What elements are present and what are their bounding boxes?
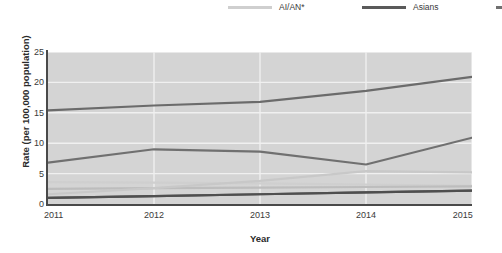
chart-legend: AI/AN*AsiansBlacksHispanicsNHOPI*WhitesM… xyxy=(228,2,496,42)
x-tick-label: 2012 xyxy=(144,210,164,220)
legend-item: Asians xyxy=(362,2,496,12)
legend-item: Blacks xyxy=(496,2,502,12)
legend-swatch-icon xyxy=(362,6,406,9)
series-canvas xyxy=(48,52,472,204)
x-axis-line xyxy=(46,204,472,206)
x-tick-label: 2013 xyxy=(250,210,270,220)
x-tick-label: 2011 xyxy=(44,210,63,220)
legend-swatch-icon xyxy=(228,6,272,9)
y-axis-ticks: 0510152025 xyxy=(10,0,44,253)
series-line xyxy=(48,186,472,188)
y-tick-label: 5 xyxy=(16,169,44,179)
legend-swatch-icon xyxy=(496,6,502,9)
y-tick-label: 15 xyxy=(16,108,44,118)
legend-item: AI/AN* xyxy=(228,2,362,12)
y-tick-label: 0 xyxy=(16,199,44,209)
chart-figure: AI/AN*AsiansBlacksHispanicsNHOPI*WhitesM… xyxy=(0,0,502,253)
x-tick-label: 2015 xyxy=(453,210,473,220)
x-axis-label: Year xyxy=(48,233,472,244)
legend-item-label: Asians xyxy=(413,2,439,12)
legend-item-label: AI/AN* xyxy=(279,2,305,12)
y-axis-line xyxy=(46,50,48,206)
x-tick-label: 2014 xyxy=(356,210,376,220)
y-tick-label: 25 xyxy=(16,47,44,57)
y-tick-label: 10 xyxy=(16,138,44,148)
y-tick-label: 20 xyxy=(16,77,44,87)
plot-area xyxy=(48,52,472,204)
